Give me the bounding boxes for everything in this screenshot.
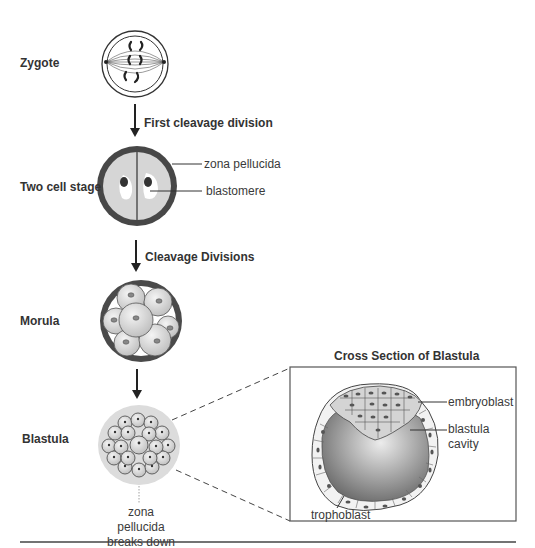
label-embryoblast: embryoblast: [448, 395, 513, 410]
label-blastomere: blastomere: [206, 184, 265, 199]
two-cell-diagram: [97, 146, 202, 226]
cross-section-title: Cross Section of Blastula: [334, 349, 479, 363]
arrow-label-first-cleavage: First cleavage division: [144, 116, 273, 130]
label-zona-pellucida: zona pellucida: [204, 157, 281, 172]
label-zona-breaks-down: zona pellucida breaks down: [103, 505, 179, 548]
stage-label-morula: Morula: [20, 314, 59, 328]
embryo-development-diagram: [0, 0, 535, 548]
stage-label-two-cell: Two cell stage: [20, 180, 101, 194]
blastula-diagram: [98, 405, 180, 503]
label-blastula-cavity: blastula cavity: [448, 422, 489, 452]
label-zona-breaks-line2: breaks down: [103, 535, 179, 548]
label-zona-breaks-line1: zona pellucida: [103, 505, 179, 535]
arrow-label-cleavage-divisions: Cleavage Divisions: [145, 250, 254, 264]
zoom-connector-lines: [172, 368, 290, 521]
arrow-to-blastula: [132, 369, 142, 399]
arrow-first-cleavage: [130, 104, 140, 137]
arrow-cleavage-divisions: [131, 240, 141, 272]
stage-label-zygote: Zygote: [20, 56, 59, 70]
label-trophoblast: trophoblast: [311, 508, 370, 523]
stage-label-blastula: Blastula: [22, 432, 69, 446]
label-cavity-line2: cavity: [448, 437, 489, 452]
label-cavity-line1: blastula: [448, 422, 489, 437]
zygote-diagram: [102, 31, 168, 97]
morula-diagram: [100, 280, 182, 362]
